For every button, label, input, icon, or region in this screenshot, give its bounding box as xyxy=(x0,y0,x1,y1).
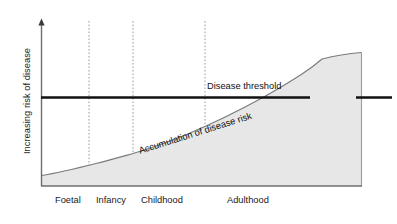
life-course-risk-diagram: Increasing risk of disease Disease thres… xyxy=(0,0,397,224)
x-tick-label-adulthood: Adulthood xyxy=(227,195,269,205)
diagram-canvas xyxy=(0,0,397,224)
disease-threshold-label: Disease threshold xyxy=(207,81,281,91)
x-tick-label-infancy: Infancy xyxy=(96,195,126,205)
y-axis-label: Increasing risk of disease xyxy=(22,21,32,181)
y-axis-arrow-icon xyxy=(38,19,44,26)
x-tick-label-foetal: Foetal xyxy=(55,195,81,205)
x-tick-label-childhood: Childhood xyxy=(141,195,183,205)
